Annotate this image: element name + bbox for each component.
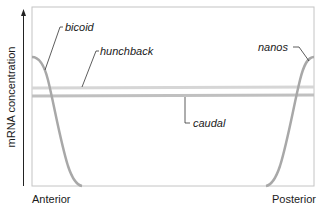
y-axis-label: mRNA concentration <box>5 47 17 148</box>
nanos-leader-line <box>293 47 309 61</box>
bicoid-curve <box>32 57 82 186</box>
nanos-curve <box>266 57 314 186</box>
hunchback-label: hunchback <box>100 45 154 57</box>
caudal-label: caudal <box>193 117 226 129</box>
caudal-leader-line <box>185 97 190 123</box>
hunchback-leader-line <box>82 51 99 87</box>
nanos-label: nanos <box>258 41 288 53</box>
anterior-label: Anterior <box>32 193 71 205</box>
bicoid-label: bicoid <box>65 21 95 33</box>
gene-expression-diagram: bicoid hunchback caudal nanos mRNA conce… <box>0 0 322 212</box>
caudal-curve <box>32 95 314 96</box>
y-axis-arrowhead-icon <box>21 9 26 16</box>
posterior-label: Posterior <box>272 193 316 205</box>
hunchback-curve <box>32 87 314 88</box>
bicoid-leader-line <box>45 27 63 70</box>
